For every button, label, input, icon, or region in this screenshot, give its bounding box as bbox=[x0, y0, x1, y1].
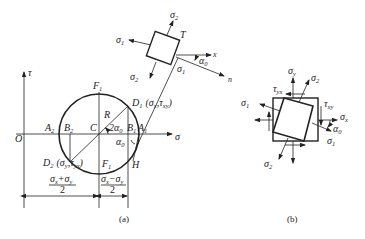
sigma-axis-label: σ bbox=[175, 131, 181, 142]
angle-arc-a0 bbox=[131, 140, 135, 144]
stress-element-a: T σ2 σ1 σ2 x n σ1 α0 bbox=[116, 9, 232, 84]
label-a0: α0 bbox=[116, 136, 125, 148]
angle-arc-2a0 bbox=[106, 128, 109, 134]
svg-text:σ2: σ2 bbox=[264, 158, 273, 170]
label-c: C bbox=[90, 122, 97, 133]
label-t: T bbox=[180, 29, 187, 40]
figure-b: σy σ2 τyx τxy σ1 σx σ1 α0 σ2 (b) bbox=[241, 65, 348, 224]
label-a2: A2 bbox=[44, 122, 55, 134]
svg-text:α0: α0 bbox=[333, 123, 342, 135]
label-2a0: 2α0 bbox=[109, 122, 123, 134]
caption-b: (b) bbox=[287, 214, 298, 224]
svg-text:n: n bbox=[228, 75, 232, 84]
svg-text:σ1: σ1 bbox=[327, 135, 335, 147]
label-d1: D1(σx,τxy) bbox=[131, 97, 173, 109]
svg-text:σ2: σ2 bbox=[130, 71, 139, 83]
tau-axis-label: τ bbox=[28, 67, 32, 78]
mohr-circle-diagram: τ σ O F1 R C 2α0 B1 A1 A2 B2 α0 H F1 bbox=[0, 0, 365, 239]
svg-text:σ1: σ1 bbox=[177, 63, 185, 75]
label-h: H bbox=[131, 159, 140, 170]
svg-text:σ1: σ1 bbox=[116, 34, 124, 46]
svg-text:x: x bbox=[212, 50, 217, 59]
label-d2: D2(σy,τyx) bbox=[42, 157, 84, 169]
svg-text:2: 2 bbox=[110, 184, 115, 195]
svg-text:τxy: τxy bbox=[324, 98, 333, 110]
svg-text:σ2: σ2 bbox=[170, 9, 179, 21]
caption-a: (a) bbox=[119, 214, 129, 224]
svg-text:2: 2 bbox=[60, 184, 65, 195]
dimension-left-fraction: σx+σy 2 bbox=[49, 173, 76, 195]
label-r: R bbox=[103, 109, 110, 120]
dimension-right-fraction: σx−σy 2 bbox=[101, 173, 126, 195]
figure-a: τ σ O F1 R C 2α0 B1 A1 A2 B2 α0 H F1 bbox=[15, 9, 232, 224]
svg-text:α0: α0 bbox=[199, 55, 208, 67]
svg-text:σx: σx bbox=[340, 111, 348, 123]
label-b1: B1 bbox=[127, 122, 136, 134]
label-a1: A1 bbox=[137, 122, 147, 134]
svg-text:τyx: τyx bbox=[273, 83, 282, 95]
svg-text:σ2: σ2 bbox=[311, 72, 320, 84]
origin-label: O bbox=[15, 133, 22, 144]
label-f1-bottom: F1 bbox=[101, 158, 111, 170]
svg-text:σy: σy bbox=[288, 65, 296, 77]
svg-text:σ1: σ1 bbox=[241, 97, 249, 109]
label-f1-top: F1 bbox=[92, 80, 102, 92]
label-b2: B2 bbox=[64, 122, 74, 134]
